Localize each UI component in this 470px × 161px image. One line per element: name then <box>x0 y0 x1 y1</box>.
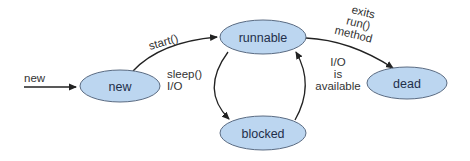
node-blocked: blocked <box>220 116 306 150</box>
edge-label-new: new <box>24 72 46 84</box>
node-dead: dead <box>367 67 447 99</box>
thread-state-diagram: new runnable blocked dead new start() sl… <box>0 0 470 161</box>
edge-runnable-blocked <box>214 52 229 119</box>
node-label-new: new <box>109 80 133 94</box>
node-new: new <box>80 70 160 102</box>
edge-label-available: available <box>315 80 360 92</box>
edge-label-exits-group: exits run() method <box>334 0 380 44</box>
node-runnable: runnable <box>220 20 306 54</box>
edge-label-io-2: I/O <box>330 56 345 68</box>
node-label-runnable: runnable <box>239 31 288 45</box>
edge-blocked-runnable <box>295 52 305 120</box>
node-label-dead: dead <box>393 77 421 91</box>
edge-label-sleep: sleep() <box>167 68 202 80</box>
edge-label-io: I/O <box>167 80 182 92</box>
edge-runnable-dead <box>306 38 393 68</box>
edge-label-is: is <box>334 68 343 80</box>
edge-label-start: start() <box>147 32 179 52</box>
node-label-blocked: blocked <box>241 127 284 141</box>
